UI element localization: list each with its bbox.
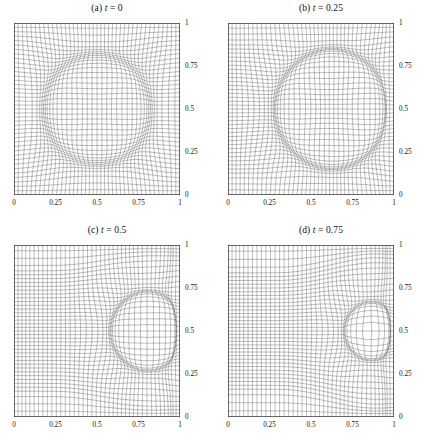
panel-c-xtick-label: 1 xyxy=(178,421,182,429)
panel-a-mesh xyxy=(14,23,180,195)
panel-c-ytick-label: 0 xyxy=(185,413,189,421)
panel-c-xtick-label: 0.75 xyxy=(132,421,145,429)
panel-d-xtick-label: 0.75 xyxy=(346,421,359,429)
panel-b-value: 0.25 xyxy=(326,3,343,13)
figure-adaptive-mesh-evolution: (a) t = 0 00.250.50.75100.250.50.751 (b)… xyxy=(0,0,428,445)
panel-a-variable: t xyxy=(105,3,108,13)
panel-d-equals: = xyxy=(318,225,323,235)
panel-c-xtick-label: 0.5 xyxy=(93,421,102,429)
panel-d-tag: (d) xyxy=(299,225,310,235)
panel-a: (a) t = 0 00.250.50.75100.250.50.751 xyxy=(0,0,214,222)
panel-a-ytick-label: 0 xyxy=(185,191,189,199)
panel-a-ytick-label: 0.75 xyxy=(185,62,198,70)
panel-c-ytick-label: 0.5 xyxy=(185,327,194,335)
panel-d-ytick-label: 0 xyxy=(399,413,403,421)
panel-b-ytick-label: 0 xyxy=(399,191,403,199)
panel-d-variable: t xyxy=(313,225,316,235)
panel-b-tag: (b) xyxy=(299,3,310,13)
panel-d: (d) t = 0.75 00.250.50.75100.250.50.751 xyxy=(214,222,428,444)
panel-a-equals: = xyxy=(110,3,115,13)
panel-c-ytick-label: 0.25 xyxy=(185,370,198,378)
panel-a-tag: (a) xyxy=(91,3,102,13)
panel-c-ytick-label: 1 xyxy=(185,241,189,249)
panel-c-xtick-label: 0 xyxy=(12,421,16,429)
panel-a-ytick-label: 1 xyxy=(185,19,189,27)
panel-c-xtick-label: 0.25 xyxy=(49,421,62,429)
panel-b-ytick-label: 1 xyxy=(399,19,403,27)
panel-d-mesh xyxy=(228,245,394,417)
panel-b-xtick-label: 1 xyxy=(392,199,396,207)
panel-b-variable: t xyxy=(313,3,316,13)
panel-a-ytick-label: 0.5 xyxy=(185,105,194,113)
panel-d-xtick-label: 0 xyxy=(226,421,230,429)
panel-a-xtick-label: 0.75 xyxy=(132,199,145,207)
panel-b: (b) t = 0.25 00.250.50.75100.250.50.751 xyxy=(214,0,428,222)
panel-c-equals: = xyxy=(106,225,111,235)
panel-b-ytick-label: 0.25 xyxy=(399,148,412,156)
panel-c-mesh xyxy=(14,245,180,417)
panel-b-xtick-label: 0.75 xyxy=(346,199,359,207)
panel-d-xtick-label: 1 xyxy=(392,421,396,429)
panel-b-title: (b) t = 0.25 xyxy=(214,2,428,14)
panel-c-value: 0.5 xyxy=(114,225,126,235)
panel-a-plot: 00.250.50.75100.250.50.751 xyxy=(14,23,180,195)
panel-b-plot: 00.250.50.75100.250.50.751 xyxy=(228,23,394,195)
panel-a-title: (a) t = 0 xyxy=(0,2,214,14)
panel-b-xtick-label: 0 xyxy=(226,199,230,207)
panel-c-tag: (c) xyxy=(88,225,99,235)
panel-b-ytick-label: 0.75 xyxy=(399,62,412,70)
panel-d-ytick-label: 1 xyxy=(399,241,403,249)
panel-a-value: 0 xyxy=(118,3,123,13)
panel-b-mesh xyxy=(228,23,394,195)
panel-b-ytick-label: 0.5 xyxy=(399,105,408,113)
panel-a-xtick-label: 0.25 xyxy=(49,199,62,207)
panel-d-xtick-label: 0.25 xyxy=(263,421,276,429)
panel-d-value: 0.75 xyxy=(326,225,343,235)
panel-c: (c) t = 0.5 00.250.50.75100.250.50.751 xyxy=(0,222,214,444)
panel-b-equals: = xyxy=(318,3,323,13)
panel-c-title: (c) t = 0.5 xyxy=(0,224,214,236)
panel-d-ytick-label: 0.75 xyxy=(399,284,412,292)
panel-a-ytick-label: 0.25 xyxy=(185,148,198,156)
panel-d-ytick-label: 0.25 xyxy=(399,370,412,378)
panel-c-variable: t xyxy=(101,225,104,235)
panel-a-xtick-label: 0.5 xyxy=(93,199,102,207)
panel-d-xtick-label: 0.5 xyxy=(307,421,316,429)
panel-d-title: (d) t = 0.75 xyxy=(214,224,428,236)
panel-a-xtick-label: 1 xyxy=(178,199,182,207)
panel-a-xtick-label: 0 xyxy=(12,199,16,207)
panel-d-ytick-label: 0.5 xyxy=(399,327,408,335)
panel-b-xtick-label: 0.25 xyxy=(263,199,276,207)
panel-c-plot: 00.250.50.75100.250.50.751 xyxy=(14,245,180,417)
panel-d-plot: 00.250.50.75100.250.50.751 xyxy=(228,245,394,417)
panel-b-xtick-label: 0.5 xyxy=(307,199,316,207)
panel-c-ytick-label: 0.75 xyxy=(185,284,198,292)
